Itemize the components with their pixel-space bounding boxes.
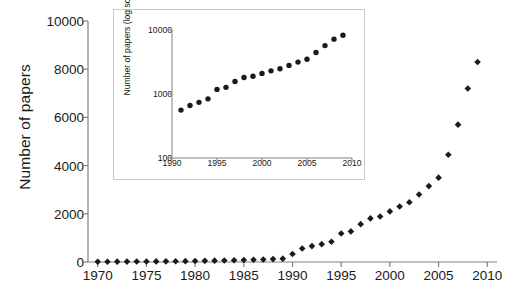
main-data-point xyxy=(221,257,228,264)
main-data-point xyxy=(114,258,121,265)
inset-data-point xyxy=(304,56,309,61)
inset-data-point xyxy=(322,43,327,48)
main-data-point xyxy=(94,258,101,265)
main-data-point xyxy=(387,208,394,215)
main-data-point xyxy=(192,258,199,265)
main-data-point xyxy=(406,199,413,206)
inset-data-point xyxy=(196,100,201,105)
inset-data-point xyxy=(295,59,300,64)
inset-plot-area xyxy=(114,10,366,181)
main-data-point xyxy=(211,257,218,264)
inset-chart-panel: Number of papers (log scale) 10010001000… xyxy=(113,9,365,180)
main-data-point xyxy=(143,258,150,265)
inset-data-point xyxy=(340,32,345,37)
main-data-point xyxy=(172,258,179,265)
inset-data-point xyxy=(259,71,264,76)
figure-canvas: Number of papers 0200040006000800010000 … xyxy=(0,0,507,296)
main-data-point xyxy=(474,59,481,66)
main-data-point xyxy=(445,151,452,158)
main-data-point xyxy=(396,203,403,210)
main-data-point xyxy=(367,215,374,222)
main-data-point xyxy=(163,258,170,265)
inset-data-point xyxy=(232,79,237,84)
inset-data-point xyxy=(205,96,210,101)
main-data-point xyxy=(153,258,160,265)
main-data-point xyxy=(348,228,355,235)
main-data-point xyxy=(426,183,433,190)
main-data-point xyxy=(133,258,140,265)
inset-data-point xyxy=(331,36,336,41)
main-data-point xyxy=(202,258,209,265)
inset-data-point xyxy=(241,75,246,80)
inset-data-point xyxy=(313,50,318,55)
main-data-point xyxy=(328,238,335,245)
main-data-point xyxy=(289,251,296,258)
main-data-point xyxy=(464,85,471,92)
main-data-point xyxy=(231,257,238,264)
main-data-point xyxy=(104,258,111,265)
main-data-point xyxy=(435,174,442,181)
main-data-point xyxy=(338,230,345,237)
inset-data-point xyxy=(214,87,219,92)
main-data-point xyxy=(377,213,384,220)
main-data-point xyxy=(416,191,423,198)
main-data-point xyxy=(309,243,316,250)
inset-data-point xyxy=(187,103,192,108)
main-data-point xyxy=(455,121,462,128)
inset-data-point xyxy=(223,85,228,90)
inset-data-point xyxy=(286,63,291,68)
inset-data-point xyxy=(277,66,282,71)
main-data-point xyxy=(318,241,325,248)
inset-data-point xyxy=(268,68,273,73)
main-data-point xyxy=(299,245,306,252)
inset-data-point xyxy=(250,74,255,79)
main-data-point xyxy=(124,258,131,265)
main-data-point xyxy=(182,258,189,265)
main-data-point xyxy=(357,221,364,228)
inset-data-point xyxy=(178,107,183,112)
main-data-point xyxy=(279,255,286,262)
